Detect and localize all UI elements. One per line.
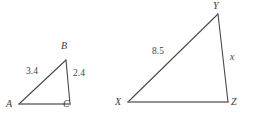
side-length-yz-variable: x	[230, 53, 234, 63]
vertex-label-x: X	[115, 97, 121, 107]
vertex-label-z: Z	[231, 97, 237, 107]
vertex-label-c: C	[63, 99, 70, 109]
vertex-label-a: A	[6, 99, 12, 109]
side-length-xy: 8.5	[152, 47, 164, 57]
triangle-xyz-shape	[128, 14, 228, 102]
vertex-label-y: Y	[213, 1, 219, 11]
side-length-bc: 2.4	[73, 69, 85, 79]
segment-xy	[128, 14, 218, 102]
geometry-figure: A B C 3.4 2.4 X Y Z 8.5 x	[0, 0, 254, 124]
vertex-label-b: B	[61, 41, 67, 51]
side-length-ab: 3.4	[26, 67, 38, 77]
figure-svg	[0, 0, 254, 124]
segment-yz	[218, 14, 228, 102]
